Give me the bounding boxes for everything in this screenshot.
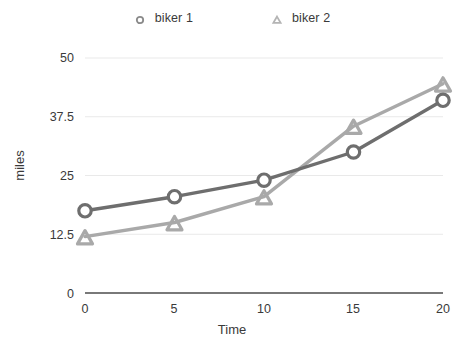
x-tick-label-0: 0 [82,302,89,316]
data-point [168,191,180,203]
x-tick-label-15: 15 [346,302,360,316]
series-biker-2 [78,78,451,244]
data-point [258,174,270,186]
gridlines [85,58,443,234]
data-series-layer [78,78,451,244]
data-point [437,94,449,106]
y-axis-title: miles [12,149,27,183]
x-tick-label-10: 10 [257,302,271,316]
data-point [79,205,91,217]
x-tick-label-20: 20 [436,302,450,316]
y-tick-label-25: 25 [30,169,74,183]
y-tick-label-12-5: 12.5 [30,228,74,242]
data-point [347,146,359,158]
series-biker-1 [79,94,449,217]
y-tick-label-50: 50 [30,51,74,65]
x-axis-title: Time [0,322,464,337]
y-tick-label-0: 0 [30,287,74,301]
line-chart: biker 1 biker 2 50 37.5 25 12.5 0 0 5 10… [0,0,464,354]
x-tick-label-5: 5 [171,302,178,316]
y-tick-label-37-5: 37.5 [30,110,74,124]
